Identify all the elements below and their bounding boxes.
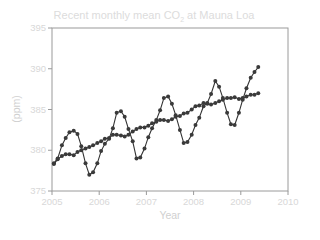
data-point [178, 114, 182, 118]
x-tick-label: 2006 [89, 196, 110, 207]
data-point [134, 156, 138, 160]
data-point [185, 111, 189, 115]
data-point [123, 115, 127, 119]
data-point [174, 115, 178, 119]
data-point [217, 99, 221, 103]
data-point [134, 127, 138, 131]
y-tick-label: 380 [30, 144, 46, 155]
data-point [75, 150, 79, 154]
data-point [197, 103, 201, 107]
data-series [52, 65, 260, 177]
data-point [233, 95, 237, 99]
data-point [143, 147, 147, 151]
data-point [138, 156, 142, 160]
data-point [182, 141, 186, 145]
data-point [209, 103, 213, 107]
data-point [67, 130, 71, 134]
data-point [67, 152, 71, 156]
data-point [202, 101, 206, 105]
data-point [193, 123, 197, 127]
data-point [103, 137, 107, 141]
data-point [217, 85, 221, 89]
data-point [221, 98, 225, 102]
data-point [126, 133, 130, 137]
data-point [178, 128, 182, 132]
data-point [237, 111, 241, 115]
series-line-1 [54, 93, 258, 164]
data-point [126, 127, 130, 131]
data-point [205, 102, 209, 106]
data-point [170, 102, 174, 106]
data-point [99, 139, 103, 143]
data-point [229, 96, 233, 100]
x-tick-label: 2008 [183, 196, 204, 207]
data-point [154, 120, 158, 124]
data-point [115, 111, 119, 115]
data-point [84, 161, 88, 165]
data-point [87, 145, 91, 149]
x-axis: 200520062007200820092010 [41, 191, 298, 207]
data-point [91, 143, 95, 147]
data-point [107, 136, 111, 140]
data-point [131, 130, 135, 134]
data-point [244, 94, 248, 98]
data-point [60, 154, 64, 158]
data-point [95, 141, 99, 145]
data-point [213, 79, 217, 83]
data-point [111, 126, 115, 130]
data-point [190, 133, 194, 137]
data-point [115, 133, 119, 137]
data-point [64, 136, 68, 140]
data-point [138, 125, 142, 129]
data-point [185, 140, 189, 144]
y-tick-label: 385 [30, 104, 46, 115]
data-point [252, 93, 256, 97]
data-point [56, 157, 60, 161]
data-point [225, 96, 229, 100]
y-tick-label: 395 [30, 22, 46, 33]
data-point [190, 108, 194, 112]
data-point [249, 76, 253, 80]
x-tick-label: 2009 [230, 196, 251, 207]
data-point [244, 86, 248, 90]
data-point [150, 126, 154, 130]
data-point [249, 93, 253, 97]
x-tick-label: 2007 [136, 196, 157, 207]
data-point [72, 153, 76, 157]
data-point [131, 139, 135, 143]
data-point [146, 135, 150, 139]
data-point [79, 148, 83, 152]
data-point [95, 161, 99, 165]
data-point [52, 162, 56, 166]
data-point [233, 123, 237, 127]
plot-frame [52, 28, 288, 191]
data-point [60, 143, 64, 147]
data-point [193, 104, 197, 108]
data-point [146, 124, 150, 128]
data-point [213, 101, 217, 105]
data-point [162, 118, 166, 122]
data-point [166, 94, 170, 98]
data-point [150, 121, 154, 125]
data-point [87, 173, 91, 177]
y-axis: 375380385390395 [30, 22, 52, 196]
data-point [103, 142, 107, 146]
data-point [75, 132, 79, 136]
data-point [256, 65, 260, 69]
x-tick-label: 2010 [277, 196, 298, 207]
data-point [72, 129, 76, 133]
data-point [166, 119, 170, 123]
data-point [197, 116, 201, 120]
data-point [225, 111, 229, 115]
data-point [170, 117, 174, 121]
data-point [64, 152, 68, 156]
data-point [241, 96, 245, 100]
data-point [143, 125, 147, 129]
data-point [158, 108, 162, 112]
data-point [252, 70, 256, 74]
data-point [229, 122, 233, 126]
data-point [119, 109, 123, 113]
data-point [237, 97, 241, 101]
data-point [79, 144, 83, 148]
data-point [209, 92, 213, 96]
